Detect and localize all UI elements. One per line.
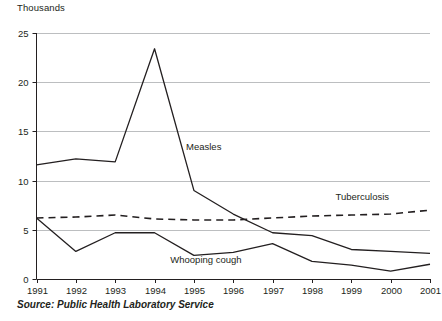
series-label-tuberculosis: Tuberculosis xyxy=(336,191,390,202)
series-label-measles: Measles xyxy=(186,141,222,152)
y-tick-label: 10 xyxy=(18,176,29,187)
y-tick-label: 15 xyxy=(18,126,29,137)
x-tick-label: 1991 xyxy=(27,285,48,296)
x-tick-label: 1998 xyxy=(302,285,323,296)
x-tick-label: 1999 xyxy=(341,285,362,296)
x-tick-label: 1993 xyxy=(105,285,126,296)
x-tick-label: 1995 xyxy=(184,285,205,296)
x-tick-label: 2000 xyxy=(381,285,402,296)
x-tick-label: 1994 xyxy=(145,285,166,296)
series-line-tuberculosis xyxy=(37,210,431,220)
source-note: Source: Public Health Laboratory Service xyxy=(17,299,214,310)
y-tick-label: 20 xyxy=(18,77,29,88)
chart-figure: Thousands 0510152025 1991199219931994199… xyxy=(0,0,442,321)
x-tick-label: 1997 xyxy=(263,285,284,296)
x-tick-label: 2001 xyxy=(420,285,441,296)
y-tick-label: 5 xyxy=(23,225,28,236)
x-tick-label: 1996 xyxy=(223,285,244,296)
x-tick-group: 1991199219931994199519961997199819992000… xyxy=(27,279,441,296)
y-tick-label: 0 xyxy=(23,274,28,285)
plot-area: 0510152025 19911992199319941995199619971… xyxy=(0,0,442,321)
x-tick-label: 1992 xyxy=(66,285,87,296)
line-chart-svg: 0510152025 19911992199319941995199619971… xyxy=(0,0,442,321)
series-line-measles xyxy=(37,49,431,254)
series-label-whooping-cough: Whooping cough xyxy=(170,254,241,265)
y-tick-group: 0510152025 xyxy=(18,28,37,285)
y-tick-label: 25 xyxy=(18,28,29,39)
